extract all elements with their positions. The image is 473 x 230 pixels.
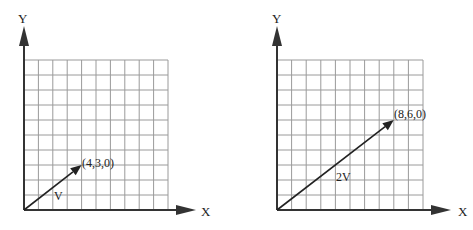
right-vector-arrow-icon (382, 120, 393, 130)
right-vector-coord-label: (8,6,0) (394, 108, 426, 120)
left-vector-coord-label: (4,3,0) (82, 157, 114, 169)
right-y-axis-label: Y (272, 12, 281, 25)
right-vector (277, 127, 385, 210)
left-x-axis-label: X (201, 205, 210, 218)
left-vector-label: V (54, 190, 63, 202)
right-vector-label: 2V (336, 171, 351, 183)
left-vector (24, 172, 73, 210)
right-x-arrow-icon (431, 205, 451, 215)
right-y-arrow-icon (272, 26, 282, 46)
left-vector-arrow-icon (70, 165, 81, 175)
left-y-arrow-icon (19, 26, 29, 46)
left-y-axis-label: Y (18, 12, 27, 25)
right-x-axis-label: X (458, 205, 467, 218)
left-x-arrow-icon (176, 205, 196, 215)
